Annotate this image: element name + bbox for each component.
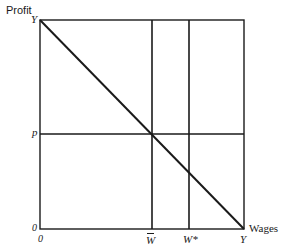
profit-wages-diagram: Profit Y p 0 0 W W* Y Wages <box>0 0 287 252</box>
label-origin-x: 0 <box>38 233 43 244</box>
label-y-bottom: Y <box>240 233 246 245</box>
y-axis-label: Profit <box>6 4 32 16</box>
diagram-lines <box>0 0 287 252</box>
label-profit-p: p <box>32 126 38 138</box>
label-w-bar-text: W <box>146 234 155 246</box>
label-w-bar: W <box>146 233 155 246</box>
label-origin-y: 0 <box>32 222 37 233</box>
label-y-top: Y <box>31 13 37 25</box>
label-w-star: W* <box>183 233 198 245</box>
x-axis-label: Wages <box>249 222 278 234</box>
income-diagonal <box>40 20 244 229</box>
overbar-mark <box>147 233 154 234</box>
